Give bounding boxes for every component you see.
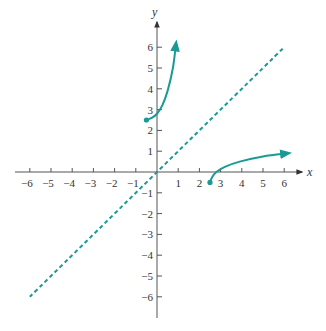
y-tick-label: 2	[148, 124, 154, 136]
x-tick-label: 6	[281, 177, 287, 189]
y-tick-label: −2	[141, 208, 153, 220]
x-tick-label: −6	[21, 177, 33, 189]
y-tick-label: −4	[141, 249, 153, 261]
y-tick-label: 6	[148, 41, 154, 53]
y-tick-label: 4	[148, 83, 154, 95]
graph: x y −6−5−4−3−2−1123456 654321−1−2−3−4−5−…	[0, 0, 326, 331]
y-tick-label: −6	[141, 291, 153, 303]
y-tick-label: −5	[141, 270, 153, 282]
x-ticks: −6−5−4−3−2−1123456	[21, 168, 288, 189]
start-dot-f-inverse	[207, 180, 212, 185]
start-dot-f	[144, 117, 149, 122]
x-tick-label: −1	[127, 177, 139, 189]
x-tick-label: 4	[239, 177, 245, 189]
x-tick-label: −2	[106, 177, 118, 189]
x-tick-label: −5	[42, 177, 54, 189]
y-tick-label: 1	[148, 145, 154, 157]
x-tick-label: 3	[218, 177, 224, 189]
x-tick-label: 1	[175, 177, 181, 189]
x-tick-label: −3	[85, 177, 97, 189]
x-tick-label: −4	[63, 177, 75, 189]
y-axis-label: y	[151, 5, 158, 19]
x-axis-label: x	[306, 165, 313, 179]
y-tick-label: −3	[141, 228, 153, 240]
y-tick-label: 5	[148, 62, 154, 74]
y-tick-label: 3	[148, 104, 154, 116]
x-tick-label: 2	[197, 177, 203, 189]
y-tick-label: −1	[141, 187, 153, 199]
x-tick-label: 5	[260, 177, 266, 189]
